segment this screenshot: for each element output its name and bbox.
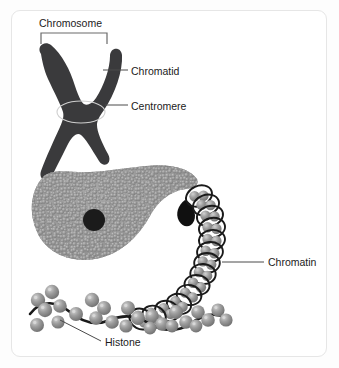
label-chromosome: Chromosome (39, 17, 102, 29)
chromosome-shape (39, 43, 122, 180)
chromosome-bracket (41, 33, 107, 44)
label-centromere: Centromere (131, 100, 186, 112)
chromatin-blob (21, 159, 204, 267)
label-chromatid: Chromatid (131, 65, 179, 77)
diagram-artwork (0, 0, 339, 368)
label-histone: Histone (105, 336, 141, 348)
chromatin-core-dark (83, 209, 105, 231)
beads-on-a-string (30, 285, 233, 335)
figure-canvas: Chromosome Chromatid Centromere Chromati… (0, 0, 339, 368)
label-chromatin: Chromatin (268, 256, 316, 268)
chromatin-exit-blob (177, 200, 195, 226)
chromatin-bead-texture (21, 159, 204, 267)
